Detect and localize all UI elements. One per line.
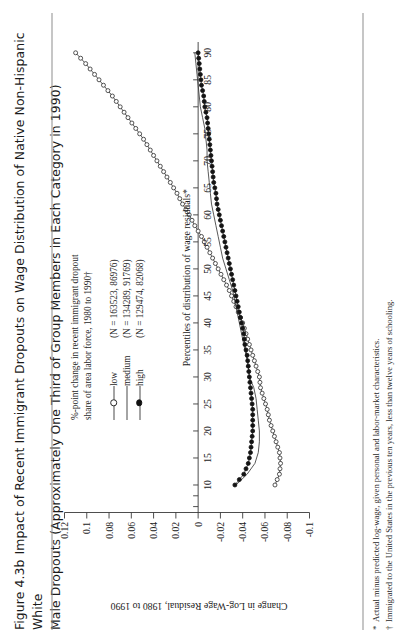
x-tick-label: 70 (201, 150, 212, 172)
x-tick-label: 45 (201, 285, 212, 307)
footnote-1: *Actual minus predicted log-wage, given … (369, 14, 382, 630)
title-divider (51, 13, 52, 630)
y-tick-label: 0.06 (125, 522, 136, 556)
rotated-figure-canvas: Figure 4.3bImpact of Recent Immigrant Dr… (0, 0, 411, 644)
footnote-2: †Immigrated to the United States in the … (382, 14, 395, 630)
x-tick-label: 90 (201, 42, 212, 64)
y-tick-label: 0.1 (81, 522, 92, 556)
y-tick-label: -0.08 (281, 522, 292, 556)
x-tick-label: 50 (201, 258, 212, 280)
x-tick-label: 80 (201, 96, 212, 118)
y-axis-label: Change in Log-Wage Residual, 1980 to 199… (110, 601, 287, 612)
x-tick-label: 30 (201, 366, 212, 388)
x-tick-label: 25 (201, 393, 212, 415)
footnote-2-marker: † (382, 622, 395, 630)
footnote-divider (362, 13, 363, 630)
footnote-1-marker: * (369, 622, 382, 630)
footnote-block: *Actual minus predicted log-wage, given … (369, 14, 394, 630)
y-tick-label: 0.12 (59, 522, 70, 556)
chart-container: %-point change in recent immigrant dropo… (56, 13, 356, 630)
y-tick-label: 0.08 (103, 522, 114, 556)
y-tick-label: 0.04 (148, 522, 159, 556)
page-title: Figure 4.3bImpact of Recent Immigrant Dr… (10, 14, 46, 630)
footnote-2-text: Immigrated to the United States in the p… (383, 300, 393, 622)
x-axis-label: Percentiles of distribution of wage resi… (180, 189, 191, 366)
x-tick-label: 75 (201, 123, 212, 145)
x-tick-label: 85 (201, 69, 212, 91)
figure-page: Figure 4.3bImpact of Recent Immigrant Dr… (0, 0, 411, 644)
y-tick-label: -0.06 (259, 522, 270, 556)
x-tick-label: 65 (201, 177, 212, 199)
footnote-1-text: Actual minus predicted log-wage, given p… (370, 339, 380, 622)
x-tick-label: 40 (201, 312, 212, 334)
x-tick-label: 35 (201, 339, 212, 361)
x-tick-label: 55 (201, 231, 212, 253)
y-tick-label: 0 (192, 522, 203, 556)
figure-number: Figure 4.3b (11, 560, 26, 630)
y-tick-label: 0.02 (170, 522, 181, 556)
figure-title-line-1: Impact of Recent Immigrant Dropouts on W… (11, 32, 44, 630)
x-tick-label: 60 (201, 204, 212, 226)
x-tick-label: 10 (201, 474, 212, 496)
x-tick-label: 20 (201, 420, 212, 442)
y-tick-label: -0.1 (304, 522, 315, 556)
series-low (73, 51, 282, 487)
x-tick-label: 15 (201, 447, 212, 469)
y-tick-label: -0.04 (237, 522, 248, 556)
y-tick-label: -0.02 (214, 522, 225, 556)
